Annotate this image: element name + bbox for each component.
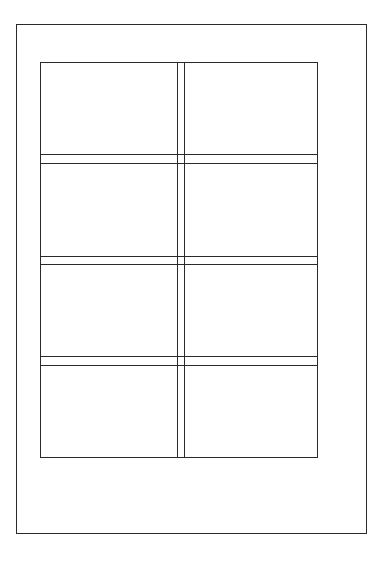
label-grid-border [40,62,318,458]
horizontal-gutter-line-1-2 [40,163,318,164]
horizontal-gutter-line-1-1 [40,154,318,155]
horizontal-gutter-line-3-1 [40,356,318,357]
vertical-gutter-line-1 [177,62,178,458]
horizontal-gutter-line-2-2 [40,264,318,265]
vertical-gutter-line-2 [184,62,185,458]
horizontal-gutter-line-2-1 [40,256,318,257]
horizontal-gutter-line-3-2 [40,365,318,366]
